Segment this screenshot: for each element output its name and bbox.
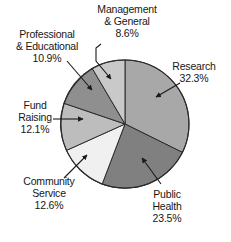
label-line-2: Raising (4, 111, 66, 123)
label-line-1: Fund (4, 99, 66, 111)
label-value: 12.1% (4, 123, 66, 135)
slice-label-research: Research 32.3% (160, 60, 228, 84)
label-line-1: Research (160, 60, 228, 72)
pie-chart: Management & General 8.6% Professional &… (0, 0, 231, 242)
label-value: 10.9% (1, 52, 93, 64)
label-value: 12.6% (4, 199, 94, 211)
slice-label-fund-raising: Fund Raising 12.1% (4, 99, 66, 136)
label-line-2: & Educational (1, 40, 93, 52)
label-value: 32.3% (160, 72, 228, 84)
label-line-1: Community (4, 175, 94, 187)
label-line-1: Public (136, 188, 198, 200)
slice-label-community-service: Community Service 12.6% (4, 175, 94, 212)
label-line-1: Professional (1, 28, 93, 40)
slice-label-public-health: Public Health 23.5% (136, 188, 198, 225)
label-line-2: & General (79, 15, 175, 27)
label-line-2: Service (4, 187, 94, 199)
label-value: 23.5% (136, 212, 198, 224)
label-line-2: Health (136, 200, 198, 212)
label-line-1: Management (79, 3, 175, 15)
slice-label-management-general: Management & General 8.6% (79, 3, 175, 40)
label-value: 8.6% (79, 27, 175, 39)
slice-label-professional-educational: Professional & Educational 10.9% (1, 28, 93, 65)
